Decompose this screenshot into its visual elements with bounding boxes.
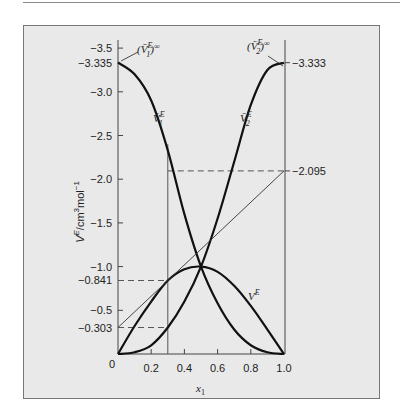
x-tick-label: 0.4: [177, 362, 192, 374]
y-special-label: −0.841: [78, 274, 112, 286]
y-tick-label: −3.0: [90, 86, 112, 98]
ticks: 00.20.40.60.81.0−0.5−1.0−1.5−2.0−2.5−3.0…: [78, 42, 326, 374]
y-tick-label: −1.0: [90, 261, 112, 273]
y-tick-label: −3.5: [90, 42, 112, 54]
y-special-label: −0.303: [78, 322, 112, 334]
right-label-mid: −2.095: [292, 165, 326, 177]
curve-series: [118, 266, 284, 354]
curve-series: [118, 63, 284, 354]
curves: [118, 63, 284, 354]
x-tick-label: 1.0: [276, 362, 291, 374]
y-tick-label: −0.5: [90, 304, 112, 316]
right-label-top: −3.333: [292, 57, 326, 69]
chart: 00.20.40.60.81.0−0.5−1.0−1.5−2.0−2.5−3.0…: [0, 0, 400, 420]
y-tick-label: −2.5: [90, 130, 112, 142]
x-tick-label: 0.8: [243, 362, 258, 374]
y-tick-label: −2.0: [90, 173, 112, 185]
curve-series: [118, 63, 284, 354]
v2-bar-label: V̄E2: [240, 110, 252, 128]
x-tick-label: 0: [109, 358, 115, 370]
y-tick-label: −1.5: [90, 217, 112, 229]
arrow-v1-infinity: [121, 52, 138, 61]
v1-infinity-label: (V̄E1)∞: [137, 41, 160, 59]
ve-label: VE: [248, 288, 260, 302]
v2-infinity-label: (V̄E2)∞: [247, 38, 270, 56]
x-axis-title: x1: [195, 382, 205, 397]
v1-bar-label: V̄E1: [153, 110, 165, 128]
tangent-line: [118, 171, 284, 328]
x-tick-label: 0.2: [144, 362, 159, 374]
y-special-label: −3.335: [78, 57, 112, 69]
y-axis-title: VE/cm3mol−1: [72, 181, 86, 243]
x-tick-label: 0.6: [210, 362, 225, 374]
